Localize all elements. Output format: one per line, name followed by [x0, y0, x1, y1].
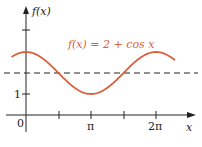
y-axis-arrow-icon	[23, 6, 29, 14]
y-axis-label: f(x)	[31, 5, 51, 18]
two-pi-label: 2π	[148, 120, 162, 133]
x-axis-arrow-icon	[187, 112, 196, 118]
function-label: f(x) = 2 + cos x	[67, 38, 155, 51]
pi-label: π	[87, 120, 94, 133]
cosine-chart: f(x) x 0 π 2π 1 f(x) = 2 + cos x	[0, 0, 202, 147]
origin-label: 0	[17, 117, 24, 130]
y-tick-label-1: 1	[14, 88, 21, 101]
x-axis-label: x	[186, 121, 193, 134]
